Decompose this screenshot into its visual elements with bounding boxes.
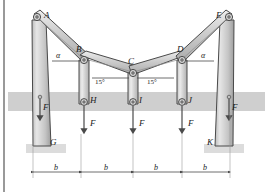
joint-label-E: E	[216, 11, 222, 20]
pin-hole-B	[83, 59, 86, 62]
pin-hole-D	[181, 59, 184, 62]
joint-label-B: B	[76, 45, 82, 54]
pin-hole-I	[132, 101, 135, 104]
joint-label-G: G	[50, 138, 57, 147]
angle-label-fifteen-left: 15°	[95, 79, 105, 86]
angle-label-alpha-left: α	[56, 52, 60, 60]
pin-hole-E	[228, 16, 231, 19]
pin-hole-H	[83, 101, 86, 104]
pin-hole-A	[36, 16, 39, 19]
pin-hole-C	[132, 72, 135, 75]
angle-label-alpha-right: α	[201, 52, 205, 60]
column-left-AG	[32, 20, 51, 146]
force-label-left-column: F	[43, 103, 49, 112]
force-label-right-column: F	[232, 103, 238, 112]
joint-label-A: A	[44, 11, 50, 20]
hanger-DJ	[177, 60, 187, 104]
joint-label-D: D	[177, 45, 184, 54]
load-point-left-column	[38, 95, 42, 99]
force-label-H: F	[90, 119, 96, 128]
load-point-right-column	[227, 95, 231, 99]
force-label-I: F	[139, 119, 145, 128]
dimension-label-span-4: b	[203, 164, 207, 172]
joint-label-C: C	[128, 57, 134, 66]
force-label-J: F	[188, 119, 194, 128]
column-right-EK	[215, 20, 234, 146]
mechanics-figure: A B C D E G H I J K α α 15° 15° F F F F …	[0, 0, 265, 192]
hanger-BH	[79, 60, 89, 104]
angle-label-fifteen-right: 15°	[147, 79, 157, 86]
pin-hole-J	[181, 101, 184, 104]
joint-label-I: I	[139, 96, 142, 105]
joint-label-K: K	[207, 138, 213, 147]
joint-label-H: H	[90, 96, 97, 105]
joint-label-J: J	[188, 96, 192, 105]
dimension-label-span-2: b	[104, 164, 108, 172]
dimension-label-span-1: b	[54, 164, 58, 172]
dimension-label-span-3: b	[154, 164, 158, 172]
figure-canvas	[0, 0, 265, 192]
